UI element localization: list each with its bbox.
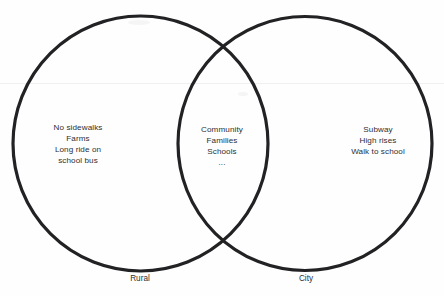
left-set-item: school bus [18, 155, 138, 166]
intersection-item: Community [182, 124, 262, 135]
intersection-items: Community Families Schools ... [182, 124, 262, 168]
left-set-items: No sidewalks Farms Long ride on school b… [18, 122, 138, 166]
venn-diagram-canvas: No sidewalks Farms Long ride on school b… [0, 0, 444, 296]
right-set-item: Walk to school [330, 146, 426, 157]
intersection-item-ellipsis: ... [182, 157, 262, 168]
left-set-label: Rural [110, 274, 170, 284]
left-set-item: No sidewalks [18, 122, 138, 133]
right-set-label: City [276, 274, 336, 284]
left-set-item: Long ride on [18, 144, 138, 155]
intersection-item: Families [182, 135, 262, 146]
right-set-item: High rises [330, 135, 426, 146]
intersection-item: Schools [182, 146, 262, 157]
right-set-item: Subway [330, 124, 426, 135]
right-set-items: Subway High rises Walk to school [330, 124, 426, 157]
left-set-item: Farms [18, 133, 138, 144]
